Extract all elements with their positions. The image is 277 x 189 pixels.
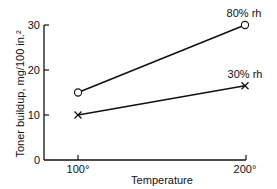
series-80rh-line xyxy=(78,25,245,93)
circle-marker-icon xyxy=(241,21,248,28)
series-label-80rh: 80% rh xyxy=(227,7,262,19)
y-tick-label-10: 10 xyxy=(28,109,40,121)
x-tick-label-100: 100° xyxy=(67,163,90,175)
y-tick-label-0: 0 xyxy=(34,154,40,166)
circle-marker-icon xyxy=(74,89,81,96)
x-tick-label-200: 200° xyxy=(234,163,257,175)
y-axis-title: Toner buildup, mg/100 in.² xyxy=(14,30,26,158)
line-chart: 30 20 10 0 100° 200° Temperature Toner b… xyxy=(0,0,277,189)
y-tick-label-30: 30 xyxy=(28,19,40,31)
y-tick-label-20: 20 xyxy=(28,64,40,76)
series-30rh-line xyxy=(78,86,245,115)
series-label-30rh: 30% rh xyxy=(228,68,263,80)
x-axis-title: Temperature xyxy=(131,174,193,186)
